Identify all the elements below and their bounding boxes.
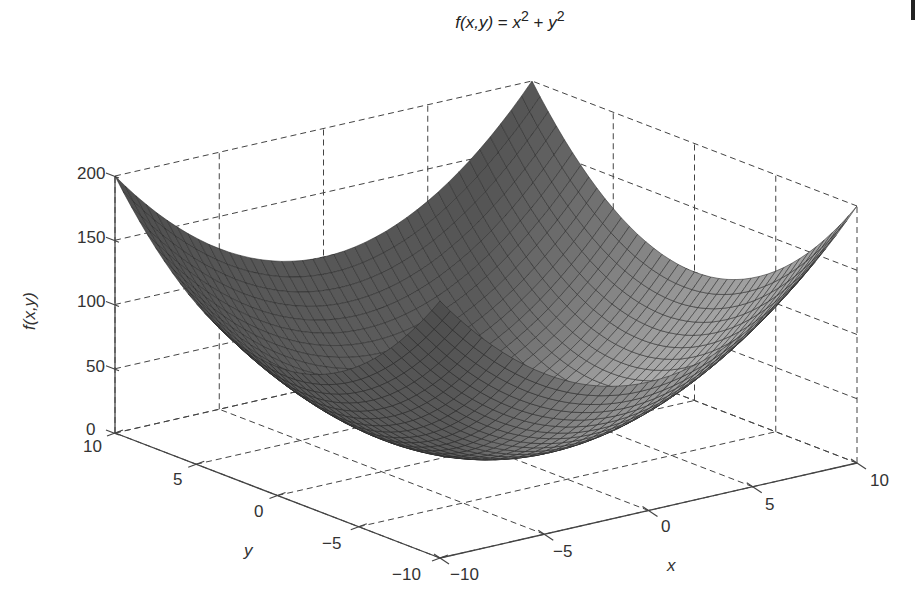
chart-title: f(x,y) = x2 + y2: [400, 8, 620, 33]
x-tick-minus5: −5: [553, 542, 572, 562]
title-y-exp: 2: [557, 8, 565, 24]
z-tick-100: 100: [77, 292, 105, 312]
z-tick-200: 200: [77, 164, 105, 184]
x-tick-minus10: −10: [450, 565, 479, 585]
y-tick-10: 10: [83, 437, 102, 457]
y-axis-label: y: [244, 541, 253, 561]
title-eq: =: [493, 13, 512, 32]
x-tick-0: 0: [661, 517, 670, 537]
page-edge-mark: [911, 0, 915, 20]
y-tick-minus10: −10: [392, 565, 421, 585]
z-tick-50: 50: [86, 357, 105, 377]
x-tick-5: 5: [765, 495, 774, 515]
x-tick-10: 10: [870, 471, 889, 491]
z-tick-150: 150: [77, 228, 105, 248]
title-x: x: [513, 13, 522, 32]
z-axis-label: f(x,y): [20, 292, 40, 330]
surface-plot: [0, 0, 918, 615]
surface-mesh: [115, 81, 857, 460]
y-tick-0: 0: [254, 502, 263, 522]
title-lhs: f(x,y): [455, 13, 493, 32]
title-plus: +: [529, 13, 548, 32]
title-y: y: [548, 13, 557, 32]
x-axis-label: x: [667, 556, 676, 576]
y-tick-5: 5: [173, 470, 182, 490]
title-x-exp: 2: [521, 8, 529, 24]
y-tick-minus5: −5: [322, 534, 341, 554]
